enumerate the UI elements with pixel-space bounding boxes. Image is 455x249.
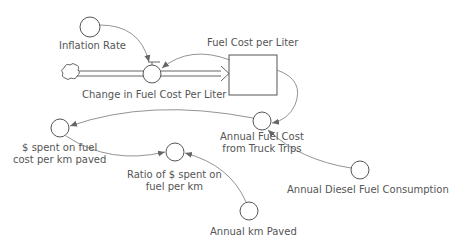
- converter-annual-diesel[interactable]: [351, 161, 369, 179]
- label-annual-km-paved: Annual km Paved: [210, 226, 297, 238]
- label-annual-fuel-cost: Annual Fuel Cost from Truck Trips: [220, 131, 304, 155]
- converter-spent-per-km[interactable]: [51, 119, 69, 137]
- stock-fuel-cost-per-liter[interactable]: [229, 55, 277, 95]
- label-inflation-rate: Inflation Rate: [59, 40, 126, 52]
- label-spent-per-km: $ spent on fuel cost per km paved: [13, 142, 106, 166]
- label-ratio: Ratio of $ spent on fuel per km: [127, 169, 222, 193]
- flow-valve-change-in-fuel-cost[interactable]: [143, 65, 161, 83]
- label-fuel-cost-per-liter: Fuel Cost per Liter: [207, 37, 298, 49]
- converter-annual-km-paved[interactable]: [240, 202, 258, 220]
- converter-inflation-rate[interactable]: [80, 17, 100, 37]
- connector-annual-fuel-cost-to-spent: [70, 110, 253, 126]
- label-annual-diesel: Annual Diesel Fuel Consumption: [287, 184, 449, 196]
- converter-annual-fuel-cost[interactable]: [253, 112, 271, 130]
- converter-ratio[interactable]: [166, 143, 184, 161]
- connector-stock-to-flow: [162, 54, 230, 68]
- label-change-in-fuel-cost: Change in Fuel Cost Per Liter: [82, 89, 226, 101]
- cloud-source-icon: [62, 64, 80, 80]
